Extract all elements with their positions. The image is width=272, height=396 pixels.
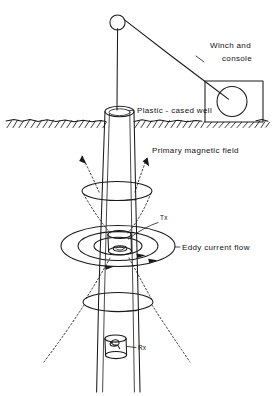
label-tx: Tx: [160, 214, 168, 221]
diagram-root: Winch and console Plastic - cased well P…: [0, 0, 272, 396]
label-plastic-cased-well: Plastic - cased well: [137, 106, 212, 115]
label-winch-line2: console: [222, 54, 252, 63]
label-rx: Rx: [138, 344, 147, 351]
label-winch-line1: Winch and: [210, 41, 251, 50]
borehole-em-logging-figure: Winch and console Plastic - cased well P…: [0, 0, 272, 396]
label-primary-magnetic-field: Primary magnetic field: [152, 146, 239, 155]
label-eddy-current-flow: Eddy current flow: [182, 243, 250, 252]
